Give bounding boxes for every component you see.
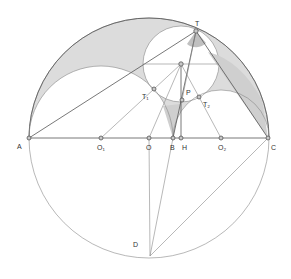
point-O2 (219, 136, 223, 140)
line-O-D (149, 138, 150, 256)
point-T1 (152, 87, 156, 91)
label-P: P (186, 89, 191, 96)
label-T1: T₁ (142, 93, 149, 100)
point-A (27, 136, 31, 140)
label-B: B (170, 144, 175, 151)
label-A: A (17, 143, 22, 150)
point-T (194, 29, 198, 33)
label-D: D (133, 241, 138, 248)
label-O: O (146, 144, 152, 151)
geometry-diagram: A O₁ O B H O₂ C T P T₁ T₂ D (0, 0, 291, 279)
point-O1 (99, 136, 103, 140)
label-O1: O₁ (97, 144, 105, 151)
label-T: T (195, 20, 200, 27)
point-O (147, 136, 151, 140)
point-P (180, 98, 184, 102)
shaded-cusp-near-B (163, 104, 180, 138)
label-C: C (271, 144, 276, 151)
label-H: H (182, 144, 187, 151)
line-D-B (150, 138, 173, 256)
label-T2: T₂ (203, 101, 210, 108)
diagram-canvas: A O₁ O B H O₂ C T P T₁ T₂ D (0, 0, 291, 279)
point-H (179, 136, 183, 140)
line-D-C (150, 138, 268, 256)
point-T2 (197, 95, 201, 99)
label-O2: O₂ (218, 144, 226, 151)
point-Q (179, 62, 183, 66)
point-B (171, 136, 175, 140)
point-C (266, 136, 270, 140)
